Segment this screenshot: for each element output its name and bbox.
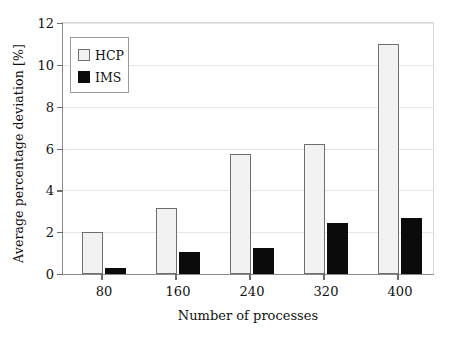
x-axis-tick-label: 400 bbox=[388, 284, 413, 299]
y-axis-tick-label: 0 bbox=[46, 267, 54, 282]
legend-swatch-hcp bbox=[78, 49, 90, 61]
y-axis-tick bbox=[57, 232, 63, 233]
bar-ims-400 bbox=[401, 218, 423, 274]
chart-legend: HCP IMS bbox=[70, 37, 129, 93]
y-axis-tick-label: 12 bbox=[37, 16, 54, 31]
x-axis-tick-label: 80 bbox=[96, 284, 113, 299]
bar-ims-80 bbox=[105, 268, 127, 274]
y-axis-tick-label: 6 bbox=[46, 141, 54, 156]
y-gridline bbox=[63, 23, 433, 24]
legend-swatch-ims bbox=[78, 71, 90, 83]
y-axis-tick bbox=[57, 190, 63, 191]
legend-item-hcp: HCP bbox=[78, 44, 128, 66]
x-axis-tick bbox=[101, 274, 102, 280]
x-axis-tick-label: 320 bbox=[314, 284, 339, 299]
bar-ims-160 bbox=[179, 252, 201, 274]
y-axis-tick-label: 8 bbox=[46, 99, 54, 114]
legend-label-hcp: HCP bbox=[95, 48, 124, 63]
bar-ims-240 bbox=[253, 248, 275, 274]
x-axis-tick bbox=[249, 274, 250, 280]
x-axis-tick bbox=[323, 274, 324, 280]
y-axis-tick bbox=[57, 107, 63, 108]
x-axis-tick-label: 240 bbox=[240, 284, 265, 299]
y-axis-tick bbox=[57, 149, 63, 150]
bar-hcp-160 bbox=[156, 208, 178, 274]
bar-ims-320 bbox=[327, 223, 349, 274]
y-axis-tick bbox=[57, 23, 63, 24]
bar-hcp-320 bbox=[304, 144, 326, 274]
legend-item-ims: IMS bbox=[78, 66, 128, 88]
bar-chart-figure: Average percentage deviation [%] 0246810… bbox=[0, 0, 453, 340]
y-axis-tick bbox=[57, 274, 63, 275]
x-axis-title: Number of processes bbox=[62, 308, 434, 323]
bar-hcp-80 bbox=[82, 232, 104, 274]
y-axis-tick bbox=[57, 65, 63, 66]
x-axis-tick-label: 160 bbox=[166, 284, 191, 299]
y-axis-title: Average percentage deviation [%] bbox=[11, 24, 26, 284]
x-axis-tick bbox=[175, 274, 176, 280]
legend-label-ims: IMS bbox=[95, 70, 121, 85]
y-axis-tick-label: 2 bbox=[46, 225, 54, 240]
x-axis-tick bbox=[397, 274, 398, 280]
bar-hcp-400 bbox=[378, 44, 400, 274]
bar-hcp-240 bbox=[230, 154, 252, 274]
y-axis-tick-label: 10 bbox=[37, 57, 54, 72]
y-axis-tick-label: 4 bbox=[46, 183, 54, 198]
